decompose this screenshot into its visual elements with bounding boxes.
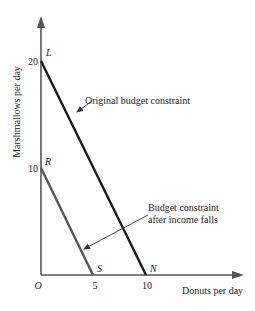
y-tick-10: 10	[28, 163, 38, 174]
annotation-fall-line1: Budget constraint	[148, 202, 219, 213]
point-R-label: R	[44, 156, 51, 167]
point-S-label: S	[97, 263, 102, 274]
y-axis-label: Marshmallows per day	[11, 66, 22, 158]
point-N-label: N	[149, 263, 158, 274]
budget-constraint-chart: Marshmallows per day Donuts per day 20 1…	[0, 0, 255, 311]
annotation-arrow-fall	[84, 215, 148, 249]
y-tick-20: 20	[28, 56, 38, 67]
original-budget-line	[41, 61, 146, 275]
x-tick-10: 10	[142, 280, 152, 291]
origin-label: O	[34, 280, 41, 291]
annotation-original: Original budget constraint	[85, 95, 190, 106]
x-tick-5: 5	[93, 280, 98, 291]
y-axis-arrow-icon	[37, 16, 45, 28]
point-L-label: L	[45, 47, 52, 58]
annotation-fall-line2: after income falls	[148, 214, 218, 225]
x-axis-arrow-icon	[232, 271, 244, 279]
reduced-budget-line	[41, 168, 93, 275]
x-axis-label: Donuts per day	[182, 285, 243, 296]
